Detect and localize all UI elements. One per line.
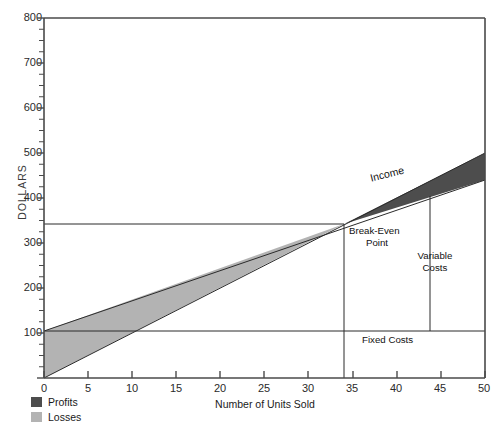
- y-major-ticks: [37, 18, 44, 378]
- legend-label-profits: Profits: [48, 396, 78, 408]
- break-even-label-line1: Break-Even: [349, 225, 419, 237]
- chart-legend: Profits Losses: [31, 396, 81, 426]
- legend-item-losses: Losses: [31, 411, 81, 423]
- chart-root: DOLLARS Number of Units Sold 800 700 600…: [0, 0, 497, 430]
- chart-canvas: [0, 0, 497, 430]
- legend-label-losses: Losses: [48, 411, 81, 423]
- variable-costs-label-line1: Variable: [406, 250, 464, 262]
- x-major-ticks: [44, 371, 485, 378]
- annotation-variable-costs: Variable Costs: [406, 250, 464, 273]
- annotation-fixed-costs: Fixed Costs: [362, 334, 442, 346]
- variable-costs-label-line2: Costs: [406, 262, 464, 274]
- legend-item-profits: Profits: [31, 396, 81, 408]
- legend-swatch-losses: [31, 412, 42, 422]
- legend-swatch-profits: [31, 397, 42, 407]
- annotation-break-even-point: Break-Even Point: [349, 225, 419, 248]
- break-even-label-line2: Point: [349, 237, 405, 249]
